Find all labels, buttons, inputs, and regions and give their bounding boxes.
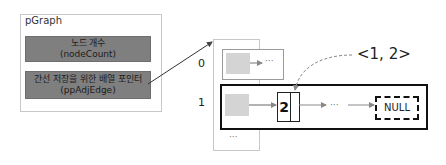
arrows-layer <box>0 0 446 165</box>
pointer-arrow <box>148 42 212 84</box>
edge-label-curve <box>295 55 352 90</box>
